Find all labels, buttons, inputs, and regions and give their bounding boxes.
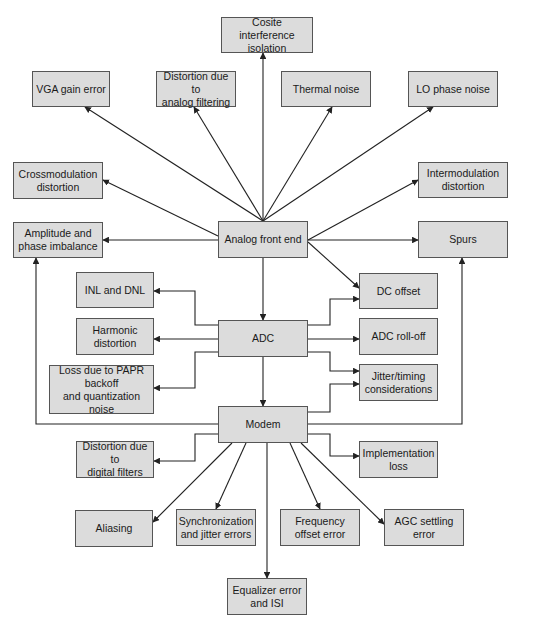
node-spurs: Spurs <box>418 221 508 258</box>
node-dc-offset: DC offset <box>359 273 438 309</box>
arrow-afe-to-lo-phase <box>263 107 433 221</box>
node-vga: VGA gain error <box>32 71 110 107</box>
node-analog-filter: Distortion due to analog filtering <box>156 71 236 107</box>
connector-arrows <box>36 53 462 578</box>
arrow-afe-to-dc-offset <box>308 242 359 288</box>
node-papr: Loss due to PAPR backoff and quantizatio… <box>49 365 154 414</box>
arrow-afe-to-vga <box>85 107 263 221</box>
arrow-afe-to-intermod <box>308 180 418 240</box>
diagram-canvas: Cosite interference isolationVGA gain er… <box>0 0 542 624</box>
node-afe: Analog front end <box>218 221 308 258</box>
arrow-afe-to-crossmod <box>103 180 218 236</box>
arrow-modem-to-impl-loss <box>308 434 359 456</box>
node-sync-jitter: Synchronization and jitter errors <box>176 509 256 546</box>
node-intermod: Intermodulation distortion <box>418 162 508 198</box>
node-equalizer: Equalizer error and ISI <box>227 578 307 615</box>
node-impl-loss: Implementation loss <box>359 441 438 478</box>
node-lo-phase: LO phase noise <box>408 71 498 107</box>
node-crossmod: Crossmodulation distortion <box>13 162 103 199</box>
node-inl-dnl: INL and DNL <box>76 272 154 308</box>
arrow-modem-to-jitter-timing <box>308 384 359 412</box>
node-agc: AGC settling error <box>384 509 464 546</box>
arrow-modem-to-digital-filters <box>154 434 218 461</box>
arrow-adc-to-dc-offset <box>308 299 359 325</box>
node-freq-offset: Frequency offset error <box>280 509 360 546</box>
arrow-afe-to-thermal <box>263 107 332 221</box>
arrow-afe-to-analog-filter <box>194 107 263 221</box>
arrow-adc-to-papr <box>154 352 218 388</box>
node-amp-phase: Amplitude and phase imbalance <box>13 222 103 258</box>
node-adc-rolloff: ADC roll-off <box>359 318 438 355</box>
node-modem: Modem <box>218 406 308 443</box>
arrow-modem-to-sync-jitter <box>216 443 246 509</box>
node-aliasing: Aliasing <box>75 510 153 547</box>
arrow-adc-to-inl-dnl <box>154 291 218 325</box>
node-jitter-timing: Jitter/timing considerations <box>359 364 438 401</box>
node-cosite: Cosite interference isolation <box>221 17 313 53</box>
node-harmonic: Harmonic distortion <box>76 318 154 355</box>
arrow-modem-to-freq-offset <box>290 443 320 509</box>
node-adc: ADC <box>218 320 308 357</box>
node-digital-filters: Distortion due to digital filters <box>76 441 154 478</box>
arrow-adc-to-jitter-timing <box>308 352 359 371</box>
node-thermal: Thermal noise <box>281 71 371 107</box>
